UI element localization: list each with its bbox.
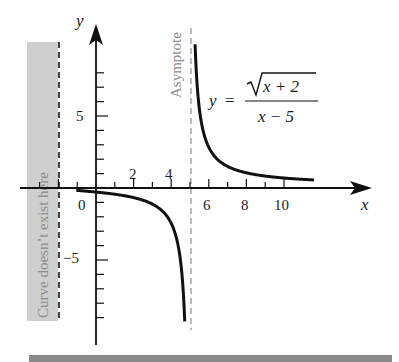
x-tick-label-0: 0	[78, 197, 86, 213]
asymptote-label: Asymptote	[168, 32, 184, 98]
formula-denominator: x − 5	[257, 107, 294, 126]
function-formula: y = x + 2 x − 5	[207, 73, 318, 126]
x-tick-label-4: 4	[165, 166, 173, 182]
x-tick-label-6: 6	[203, 197, 211, 213]
y-ticks	[96, 73, 108, 318]
excluded-region-label: Curve doesn’t exist here	[35, 172, 51, 318]
formula-lhs: y	[207, 91, 217, 110]
x-axis-label: x	[360, 195, 369, 214]
formula-numerator: x + 2	[262, 77, 300, 96]
x-tick-label-2: 2	[129, 166, 137, 182]
curve-right-branch	[195, 44, 314, 180]
y-axis-label: y	[74, 11, 84, 30]
bottom-bar	[29, 355, 392, 362]
y-tick-label-5: 5	[76, 108, 84, 124]
x-ticks	[40, 179, 284, 188]
x-tick-label-8: 8	[241, 197, 249, 213]
formula-equals: =	[225, 91, 235, 110]
x-tick-label-10: 10	[274, 197, 289, 213]
graph-figure: Curve doesn’t exist here Asymptote 0 2 4…	[0, 0, 399, 362]
y-tick-label-neg5: −5	[63, 250, 79, 266]
curve-left-branch	[76, 190, 184, 321]
